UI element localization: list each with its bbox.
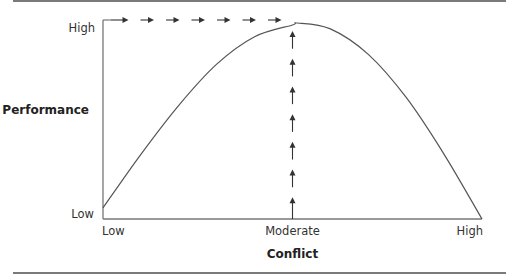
x-axis-title: Conflict: [267, 247, 319, 261]
h-arrowhead: [174, 17, 180, 23]
h-arrowhead: [276, 17, 282, 23]
h-arrowhead: [225, 17, 231, 23]
x-tick-high: High: [457, 224, 483, 238]
v-arrowhead: [290, 114, 296, 120]
v-arrowhead: [290, 31, 296, 37]
h-arrowhead: [199, 17, 205, 23]
y-tick-low: Low: [71, 207, 94, 221]
h-arrowhead: [250, 17, 256, 23]
y-axis-title: Performance: [2, 103, 89, 117]
h-arrowhead: [148, 17, 154, 23]
x-tick-moderate: Moderate: [265, 224, 320, 238]
v-arrowhead: [290, 142, 296, 148]
v-arrowhead: [290, 59, 296, 65]
v-arrowhead: [290, 170, 296, 176]
y-tick-high: High: [69, 21, 95, 35]
v-arrowhead: [290, 197, 296, 203]
x-tick-low: Low: [102, 224, 125, 238]
v-arrowhead: [290, 86, 296, 92]
vertical-arrow-line: [290, 31, 296, 219]
horizontal-arrow-line: [103, 17, 282, 23]
conflict-performance-diagram: High Low Performance Low Moderate High C…: [0, 0, 506, 275]
h-arrowhead: [123, 17, 129, 23]
